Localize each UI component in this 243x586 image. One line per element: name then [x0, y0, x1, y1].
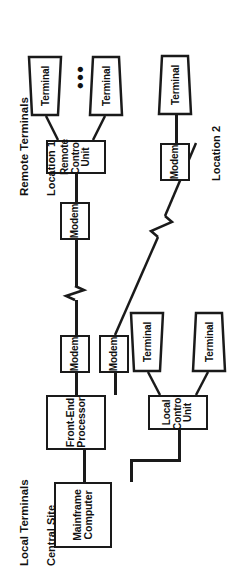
node-mainframe-computer[interactable]: Mainframe Computer	[54, 482, 112, 548]
terminal-ellipsis: •••	[70, 65, 89, 89]
node-front-end-processor[interactable]: Front-End Processor	[46, 395, 106, 450]
link-modemA-notch-in	[75, 300, 78, 335]
link-modemA-notch-out	[75, 240, 78, 286]
link-bus-vertical	[130, 460, 180, 463]
node-modem-location2[interactable]: Modem	[160, 143, 190, 181]
network-diagram-canvas: Mainframe Computer Front-End Processor L…	[0, 0, 243, 586]
caption-remote-terminals: Remote Terminals	[18, 97, 30, 196]
caption-location-1: Location 1	[45, 141, 57, 196]
link-fep-modem-a	[75, 373, 78, 395]
terminal-location1-a[interactable]: Terminal	[28, 56, 62, 116]
node-modem-central-a[interactable]: Modem	[60, 335, 90, 373]
node-modem-location2-label: Modem	[170, 145, 181, 180]
node-front-end-processor-label: Front-End Processor	[65, 397, 87, 447]
caption-location-2: Location 2	[210, 126, 222, 181]
link-mainframe-fep	[83, 450, 86, 482]
terminal-location1-b[interactable]: Terminal	[89, 56, 123, 116]
link-mainframe-bus-stub	[130, 460, 133, 482]
node-mainframe-computer-label: Mainframe Computer	[72, 489, 94, 541]
node-local-control-unit[interactable]: Local Control Unit	[148, 395, 208, 430]
link-modem2-terminal	[175, 115, 178, 143]
node-modem-central-b[interactable]: Modem	[99, 335, 129, 373]
terminal-local-1[interactable]: Terminal	[130, 312, 164, 372]
caption-central-site: Central Site	[45, 505, 57, 566]
caption-local-terminals: Local Terminals	[18, 479, 30, 566]
node-modem-central-b-label: Modem	[109, 337, 120, 372]
link-bus-lcu	[178, 430, 181, 462]
diagram-rotator: Mainframe Computer Front-End Processor L…	[0, 0, 243, 586]
link-modem1-rcu	[75, 174, 78, 202]
link-fep-modem-b	[114, 373, 117, 395]
terminal-location2[interactable]: Terminal	[158, 55, 192, 115]
node-modem-location1-label: Modem	[70, 204, 81, 239]
terminal-local-2[interactable]: Terminal	[192, 312, 226, 372]
node-modem-central-a-label: Modem	[70, 337, 81, 372]
node-remote-control-unit-label: Remote Control Unit	[60, 139, 92, 175]
node-modem-location1[interactable]: Modem	[60, 202, 90, 240]
node-local-control-unit-label: Local Control Unit	[162, 395, 194, 430]
